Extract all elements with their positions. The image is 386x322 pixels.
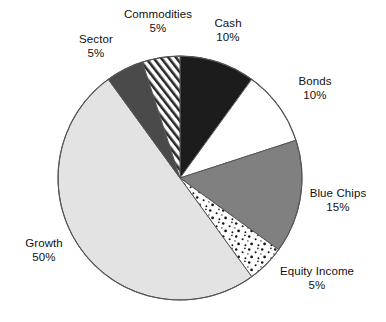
slice-label-blue-chips-name: Blue Chips <box>296 187 380 201</box>
pie-chart: Commodities 5% Cash 10% Sector 5% Bonds … <box>0 0 386 322</box>
slice-label-cash-name: Cash <box>196 17 260 31</box>
slice-label-equity-income: Equity Income 5% <box>265 265 369 292</box>
slice-label-blue-chips-value: 15% <box>296 201 380 215</box>
slice-label-blue-chips: Blue Chips 15% <box>296 187 380 214</box>
slice-label-growth-name: Growth <box>9 237 79 251</box>
pie-slices <box>58 56 302 300</box>
slice-label-growth-value: 50% <box>9 251 79 265</box>
slice-label-commodities-name: Commodities <box>106 8 210 22</box>
slice-label-bonds-value: 10% <box>283 89 347 103</box>
slice-label-equity-income-value: 5% <box>265 279 369 293</box>
slice-label-growth: Growth 50% <box>9 237 79 264</box>
slice-label-cash-value: 10% <box>196 31 260 45</box>
slice-label-commodities: Commodities 5% <box>106 8 210 35</box>
slice-label-bonds: Bonds 10% <box>283 75 347 102</box>
slice-label-equity-income-name: Equity Income <box>265 265 369 279</box>
slice-label-bonds-name: Bonds <box>283 75 347 89</box>
slice-label-cash: Cash 10% <box>196 17 260 44</box>
slice-label-sector: Sector 5% <box>60 33 132 60</box>
slice-label-sector-value: 5% <box>60 47 132 61</box>
slice-label-sector-name: Sector <box>60 33 132 47</box>
